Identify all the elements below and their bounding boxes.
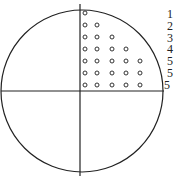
dot-marker [110,35,114,39]
dot-marker [110,71,114,75]
dot-marker [124,47,128,51]
dot-marker [124,83,128,87]
dot-marker [83,47,87,51]
dot-marker [95,83,99,87]
dot-marker [83,11,87,15]
dot-marker [110,59,114,63]
dot-marker [124,59,128,63]
dot-marker [83,35,87,39]
dot-marker [95,23,99,27]
dot-marker [95,59,99,63]
dot-marker [138,71,142,75]
quadrant-circle-diagram: 1 2 3 4 5 5 5 [0,0,178,188]
dot-marker [110,47,114,51]
dot-marker [83,59,87,63]
row-labels: 1 2 3 4 5 5 5 [164,7,173,92]
dot-marker [95,71,99,75]
dot-marker [83,83,87,87]
dot-marker [138,59,142,63]
dot-marker [95,35,99,39]
dot-marker [110,83,114,87]
row-label: 5 [164,78,170,92]
dot-marker [138,83,142,87]
dot-marker [83,23,87,27]
dot-grid [83,11,142,87]
dot-marker [83,71,87,75]
dot-marker [95,47,99,51]
dot-marker [124,71,128,75]
